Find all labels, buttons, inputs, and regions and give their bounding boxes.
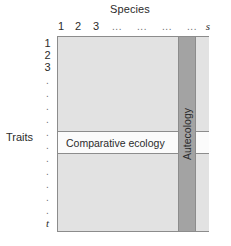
row-header-dot-2: . [40,88,55,99]
row-header-dot-8: . [40,166,55,177]
column-header-s: s [198,19,218,34]
matrix-block-lower-right [196,154,209,231]
matrix-block-upper-left [58,37,178,131]
row-header-dot-11: . [40,205,55,216]
figure-canvas: Species 1 2 3 ... ... ... ... s Traits 1… [0,0,231,246]
species-axis-title: Species [92,3,168,15]
row-header-2: 2 [40,49,55,61]
trait-species-matrix: Comparative ecology Autecology [57,36,209,232]
row-header-dot-10: . [40,192,55,203]
row-header-dot-1: . [40,75,55,86]
autecology-band: Autecology [178,37,196,231]
column-header-ellipsis-1: ... [106,19,128,34]
row-header-dot-7: . [40,153,55,164]
comparative-ecology-label: Comparative ecology [66,137,165,149]
row-header-dot-9: . [40,179,55,190]
row-header-column: 1 2 3 . . . . . . . . . . . t [40,36,55,232]
column-header-2: 2 [68,19,88,34]
autecology-label: Autecology [181,108,193,160]
row-header-1: 1 [40,37,55,49]
row-header-3: 3 [40,61,55,73]
row-header-dot-4: . [40,114,55,125]
row-header-dot-6: . [40,140,55,151]
row-header-dot-5: . [40,127,55,138]
row-header-dot-3: . [40,101,55,112]
matrix-block-upper-right [196,37,209,131]
column-header-ellipsis-2: ... [131,19,153,34]
matrix-block-lower-left [58,154,178,231]
traits-axis-title: Traits [6,131,44,143]
column-header-row: 1 2 3 ... ... ... ... s [57,19,209,34]
row-header-t: t [40,217,55,229]
column-header-ellipsis-3: ... [156,19,178,34]
column-header-3: 3 [86,19,106,34]
